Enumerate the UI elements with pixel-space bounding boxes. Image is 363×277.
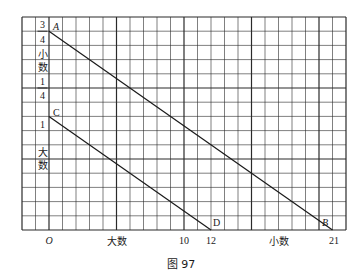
frac-one-quarter-num: 1	[40, 76, 45, 87]
label-xiao: 小	[38, 49, 48, 60]
x-label-small-number: 小数	[269, 235, 289, 247]
graph-paper-diagram: A B C D 3 4 小 数 1 4 1 大 数 O 大数 10 12 小数 …	[0, 0, 363, 277]
frac-three-quarters-den: 4	[40, 34, 45, 45]
label-da: 大	[38, 146, 48, 158]
label-shu: 数	[38, 61, 48, 73]
grid	[22, 17, 346, 230]
point-d-label: D	[213, 217, 220, 228]
x-label-ten: 10	[179, 235, 189, 246]
figure-caption: 图 97	[167, 258, 196, 271]
x-label-twelve: 12	[206, 235, 216, 246]
x-label-origin: O	[45, 235, 52, 246]
point-c-label: C	[53, 107, 60, 118]
frac-one-quarter-den: 4	[40, 90, 45, 101]
point-a-label: A	[52, 21, 60, 32]
x-label-big-number: 大数	[107, 235, 127, 247]
x-label-twenty-one: 21	[329, 235, 339, 246]
point-b-label: B	[322, 217, 328, 228]
label-one: 1	[40, 119, 45, 130]
label-shu-2: 数	[38, 159, 48, 171]
frac-three-quarters-num: 3	[40, 19, 45, 30]
